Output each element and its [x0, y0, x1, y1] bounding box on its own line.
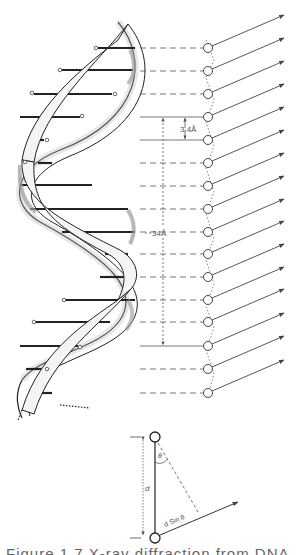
spacing-d-label: d	[145, 484, 150, 493]
figure-caption: Figure 1.7 X-ray diffraction from DNA	[6, 546, 300, 555]
scatter-points	[204, 44, 213, 398]
rise-dimension: 3.4Å	[180, 118, 197, 139]
bragg-inset: d θ d Sin θ	[130, 432, 238, 543]
inset-bottom-scatterer	[150, 533, 160, 543]
diffracted-ray-arrows	[212, 15, 284, 391]
pitch-label: 34Å	[152, 229, 167, 238]
rise-label: 3.4Å	[180, 125, 197, 134]
pitch-dimension: 34Å	[145, 118, 167, 345]
helix-strand-back	[17, 22, 145, 418]
theta-label: θ	[158, 452, 162, 459]
projection-lines	[140, 48, 203, 393]
inset-top-scatterer	[150, 432, 160, 442]
dna-double-helix	[17, 22, 145, 420]
dna-diffraction-diagram: 3.4Å 34Å d θ d Sin θ	[0, 0, 300, 555]
